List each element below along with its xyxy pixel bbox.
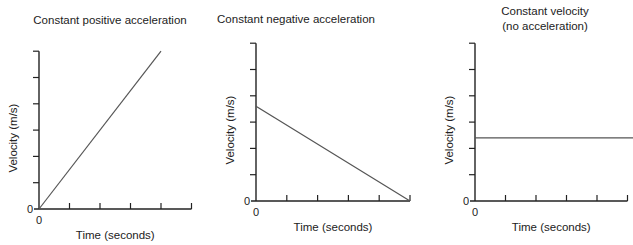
chart-title: Constant positive acceleration [33, 14, 186, 26]
chart-constant-positive-acceleration: Constant positive acceleration00Time (se… [7, 14, 192, 241]
y-origin-label: 0 [27, 203, 33, 215]
y-axis-label: Velocity (m/s) [443, 95, 455, 164]
chart-title: Constant velocity [501, 5, 589, 17]
x-axis-label: Time (seconds) [512, 221, 591, 233]
chart-constant-negative-acceleration: Constant negative acceleration00Time (se… [217, 13, 410, 233]
y-origin-label: 0 [463, 195, 469, 207]
x-origin-label: 0 [253, 206, 259, 218]
x-axis-label: Time (seconds) [76, 229, 155, 241]
x-origin-label: 0 [36, 214, 42, 226]
chart-title: Constant negative acceleration [217, 13, 375, 25]
y-origin-label: 0 [244, 195, 250, 207]
velocity-time-graphs-figure: Constant positive acceleration00Time (se… [0, 0, 633, 245]
velocity-line [39, 51, 161, 209]
x-axis-label: Time (seconds) [294, 221, 373, 233]
velocity-line [256, 106, 410, 201]
chart-title: (no acceleration) [502, 20, 588, 32]
x-origin-label: 0 [472, 206, 478, 218]
y-axis-label: Velocity (m/s) [7, 103, 19, 172]
y-axis-label: Velocity (m/s) [224, 95, 236, 164]
chart-constant-velocity: Constant velocity(no acceleration)00Time… [443, 5, 633, 233]
